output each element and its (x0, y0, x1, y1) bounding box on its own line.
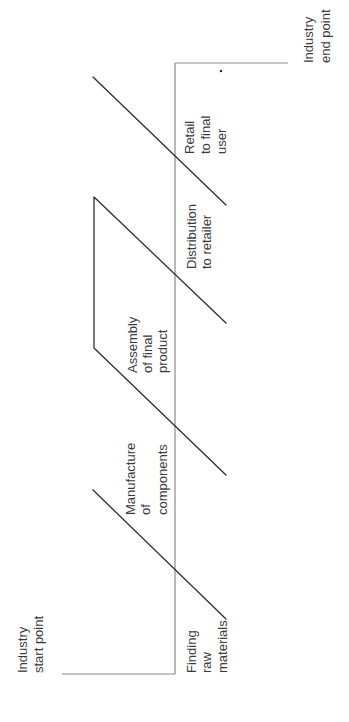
end-point-label: Industry end point (301, 9, 333, 63)
stage-manufacture-of-components: Manufacture of components (123, 443, 170, 515)
stage-distribution-to-retailer: Distribution to retailer (184, 204, 214, 269)
stage-label-line: raw (199, 651, 214, 673)
stage-label-line: of final (140, 335, 155, 373)
industry-axis (62, 63, 288, 674)
start-point-label: Industry start point (15, 616, 46, 673)
industry-value-chain-diagram: Industry start point Industry end point … (0, 0, 349, 722)
stage-label-line: to final (198, 116, 213, 154)
stage-label-line: materials (215, 620, 230, 673)
stage-label-line: Retail (182, 121, 197, 154)
stage-label-line: Distribution (184, 204, 199, 269)
stage-label-line: to retailer (199, 214, 214, 269)
stage-label-line: user (214, 128, 229, 154)
stage-label-line: Assembly (125, 316, 140, 373)
stage-label-line: product (155, 329, 170, 373)
stage-label-line: Finding (184, 630, 199, 673)
start-point-line-2: start point (31, 616, 46, 673)
stage-label-line: Manufacture (123, 443, 138, 515)
stage-label-line: of (138, 504, 153, 515)
stage-finding-raw-materials: Finding raw materials (184, 620, 230, 673)
stage-assembly-of-final-product: Assembly of final product (125, 316, 170, 373)
stage-retail-to-final-user: Retail to final user (182, 116, 229, 154)
marker-dot (220, 70, 222, 72)
start-point-line-1: Industry (15, 626, 30, 673)
end-point-line-1: Industry (301, 16, 316, 63)
stage-label-line: components (155, 444, 170, 515)
end-point-line-2: end point (318, 9, 333, 63)
